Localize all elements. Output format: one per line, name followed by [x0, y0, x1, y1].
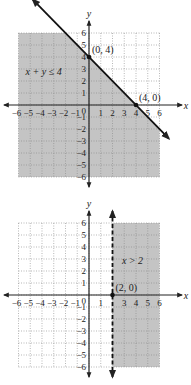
point-label: (2, 0) — [116, 282, 138, 294]
x-tick-label: −6 — [12, 298, 22, 308]
y-tick-label: 3 — [82, 64, 87, 74]
x-tick-label: −2 — [59, 108, 69, 118]
point-label: (4, 0) — [139, 92, 161, 104]
x-tick-label: 2 — [110, 108, 115, 118]
y-tick-label: −3 — [76, 136, 86, 146]
y-tick-label: −2 — [76, 124, 86, 134]
x-tick-label: −2 — [59, 298, 69, 308]
x-tick-label: 4 — [134, 108, 139, 118]
x-tick-label: 4 — [134, 298, 139, 308]
y-tick-label: −4 — [76, 338, 86, 348]
y-tick-label: 4 — [82, 242, 87, 252]
x-axis-label: x — [183, 290, 189, 301]
point-label: (0, 4) — [92, 44, 114, 56]
x-tick-label: 6 — [157, 108, 162, 118]
inequality-label: x + y ≤ 4 — [25, 66, 62, 77]
x-axis-label: x — [183, 100, 189, 111]
x-tick-label: −3 — [47, 298, 57, 308]
x-tick-label: −3 — [47, 108, 57, 118]
y-tick-label: −3 — [76, 326, 86, 336]
x-tick-label: −4 — [35, 298, 45, 308]
y-tick-label: 2 — [82, 266, 87, 276]
y-tick-label: 5 — [82, 230, 87, 240]
x-tick-label: −6 — [12, 108, 22, 118]
origin-label: 0 — [82, 106, 87, 116]
graph-x-plus-y-le-4: xy−6−5−4−3−2−1123456654321−1−2−3−4−5−60x… — [0, 0, 191, 192]
x-tick-label: −5 — [23, 298, 33, 308]
x-tick-label: 1 — [99, 298, 104, 308]
y-tick-label: −6 — [76, 172, 86, 182]
x-tick-label: 3 — [122, 298, 127, 308]
inequality-label: x > 2 — [121, 255, 143, 266]
y-tick-label: −5 — [76, 160, 86, 170]
y-tick-label: 1 — [82, 278, 87, 288]
x-tick-label: 5 — [146, 298, 151, 308]
intercept-point — [87, 55, 92, 60]
y-axis-label: y — [86, 8, 92, 19]
x-tick-label: 6 — [157, 298, 162, 308]
x-tick-label: −4 — [35, 108, 45, 118]
y-tick-label: 5 — [82, 40, 87, 50]
intercept-point — [110, 293, 115, 298]
intercept-point — [134, 103, 139, 108]
graph-x-gt-2: xy−6−5−4−3−2−113456654321−1−2−3−4−5−60x … — [0, 192, 191, 385]
y-tick-label: 2 — [82, 76, 87, 86]
x-tick-label: −5 — [23, 108, 33, 118]
x-tick-label: 1 — [99, 108, 104, 118]
y-axis-label: y — [86, 198, 92, 209]
x-tick-label: 3 — [122, 108, 127, 118]
y-tick-label: −2 — [76, 314, 86, 324]
y-tick-label: 6 — [82, 218, 87, 228]
y-tick-label: −5 — [76, 350, 86, 360]
y-tick-label: 3 — [82, 254, 87, 264]
y-tick-label: −4 — [76, 148, 86, 158]
y-tick-label: 1 — [82, 88, 87, 98]
origin-label: 0 — [82, 296, 87, 306]
y-tick-label: 6 — [82, 28, 87, 38]
y-tick-label: −6 — [76, 362, 86, 372]
